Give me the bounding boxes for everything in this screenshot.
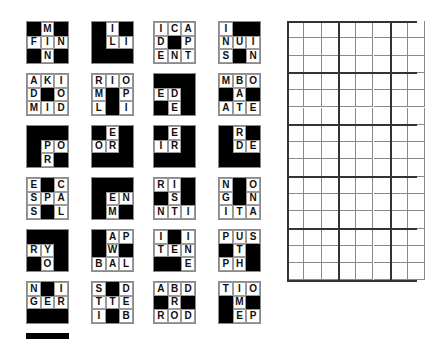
grid-cell[interactable] (356, 21, 373, 38)
grid-cell[interactable] (356, 125, 373, 142)
grid-cell[interactable] (304, 90, 321, 107)
puzzle-piece[interactable]: ILI (91, 21, 134, 64)
puzzle-piece[interactable]: TIOMEP (218, 281, 261, 324)
grid-cell[interactable] (339, 73, 356, 90)
grid-cell[interactable] (408, 125, 425, 142)
grid-cell[interactable] (391, 125, 408, 142)
grid-cell[interactable] (322, 211, 339, 228)
grid-cell[interactable] (391, 73, 408, 90)
grid-cell[interactable] (408, 142, 425, 159)
grid-cell[interactable] (374, 263, 391, 280)
grid-cell[interactable] (391, 142, 408, 159)
grid-cell[interactable] (391, 38, 408, 55)
grid-cell[interactable] (322, 108, 339, 125)
grid-cell[interactable] (374, 177, 391, 194)
grid-cell[interactable] (374, 21, 391, 38)
grid-cell[interactable] (408, 211, 425, 228)
puzzle-piece[interactable]: APWBAL (91, 229, 134, 272)
grid-cell[interactable] (408, 177, 425, 194)
grid-cell[interactable] (287, 177, 304, 194)
grid-cell[interactable] (322, 177, 339, 194)
partial-piece[interactable] (26, 333, 69, 339)
grid-cell[interactable] (391, 21, 408, 38)
grid-cell[interactable] (339, 246, 356, 263)
grid-cell[interactable] (304, 125, 321, 142)
grid-cell[interactable] (374, 108, 391, 125)
grid-cell[interactable] (356, 246, 373, 263)
grid-cell[interactable] (304, 194, 321, 211)
puzzle-piece[interactable]: NIGER (26, 281, 69, 324)
grid-cell[interactable] (356, 263, 373, 280)
grid-cell[interactable] (374, 246, 391, 263)
grid-cell[interactable] (374, 142, 391, 159)
grid-cell[interactable] (408, 263, 425, 280)
grid-cell[interactable] (356, 211, 373, 228)
grid-cell[interactable] (339, 56, 356, 73)
puzzle-piece[interactable]: RISNTI (153, 177, 196, 220)
grid-cell[interactable] (322, 73, 339, 90)
grid-cell[interactable] (304, 56, 321, 73)
grid-cell[interactable] (287, 194, 304, 211)
puzzle-piece[interactable]: NOGNITA (218, 177, 261, 220)
grid-cell[interactable] (339, 125, 356, 142)
grid-cell[interactable] (391, 177, 408, 194)
grid-cell[interactable] (322, 263, 339, 280)
grid-cell[interactable] (391, 211, 408, 228)
grid-cell[interactable] (356, 56, 373, 73)
grid-cell[interactable] (339, 211, 356, 228)
puzzle-piece[interactable]: ECSPASL (26, 177, 69, 220)
grid-cell[interactable] (287, 56, 304, 73)
grid-cell[interactable] (304, 246, 321, 263)
grid-cell[interactable] (287, 159, 304, 176)
puzzle-piece[interactable]: MBOAATE (218, 73, 261, 116)
grid-cell[interactable] (408, 194, 425, 211)
puzzle-piece[interactable]: ENM (91, 177, 134, 220)
grid-cell[interactable] (408, 90, 425, 107)
grid-cell[interactable] (356, 108, 373, 125)
grid-cell[interactable] (304, 229, 321, 246)
grid-cell[interactable] (339, 38, 356, 55)
grid-cell[interactable] (408, 56, 425, 73)
grid-cell[interactable] (408, 108, 425, 125)
grid-cell[interactable] (356, 73, 373, 90)
grid-cell[interactable] (339, 142, 356, 159)
grid-cell[interactable] (304, 177, 321, 194)
grid-cell[interactable] (304, 142, 321, 159)
grid-cell[interactable] (304, 73, 321, 90)
puzzle-piece[interactable]: ABDRROD (153, 281, 196, 324)
grid-cell[interactable] (322, 38, 339, 55)
puzzle-piece[interactable]: RDE (218, 125, 261, 168)
grid-cell[interactable] (339, 177, 356, 194)
puzzle-piece[interactable]: RYO (26, 229, 69, 272)
grid-cell[interactable] (408, 21, 425, 38)
grid-cell[interactable] (287, 142, 304, 159)
grid-cell[interactable] (322, 90, 339, 107)
grid-cell[interactable] (322, 194, 339, 211)
grid-cell[interactable] (374, 194, 391, 211)
grid-cell[interactable] (287, 21, 304, 38)
puzzle-piece[interactable]: EOR (91, 125, 134, 168)
grid-cell[interactable] (356, 142, 373, 159)
grid-cell[interactable] (391, 246, 408, 263)
puzzle-piece[interactable]: SDTTEIB (91, 281, 134, 324)
grid-cell[interactable] (374, 38, 391, 55)
puzzle-piece[interactable]: RIOMPLI (91, 73, 134, 116)
puzzle-piece[interactable]: EDE (153, 73, 196, 116)
grid-cell[interactable] (374, 159, 391, 176)
grid-cell[interactable] (339, 108, 356, 125)
grid-cell[interactable] (356, 229, 373, 246)
grid-cell[interactable] (391, 159, 408, 176)
grid-cell[interactable] (391, 56, 408, 73)
grid-cell[interactable] (374, 229, 391, 246)
grid-cell[interactable] (339, 229, 356, 246)
grid-cell[interactable] (356, 38, 373, 55)
grid-cell[interactable] (356, 159, 373, 176)
grid-cell[interactable] (356, 194, 373, 211)
grid-cell[interactable] (356, 177, 373, 194)
puzzle-piece[interactable]: PUSTPH (218, 229, 261, 272)
grid-cell[interactable] (408, 73, 425, 90)
grid-cell[interactable] (339, 263, 356, 280)
puzzle-piece[interactable]: IITENE (153, 229, 196, 272)
grid-cell[interactable] (287, 229, 304, 246)
puzzle-piece[interactable]: ICADPENT (153, 21, 196, 64)
